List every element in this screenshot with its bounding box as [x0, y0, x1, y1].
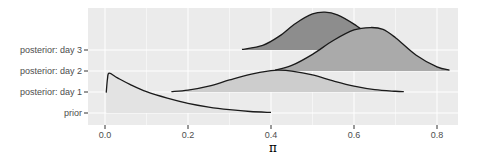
y-tick-label-day1: posterior: day 1: [20, 87, 82, 97]
x-axis: 0.0 0.2 0.4 0.6 0.8 π: [99, 125, 444, 155]
x-tick-label-1: 0.2: [182, 130, 195, 140]
x-axis-title: π: [269, 141, 277, 155]
ridgeline-chart: posterior: day 3 posterior: day 2 poster…: [0, 0, 492, 157]
x-tick-label-3: 0.6: [348, 130, 361, 140]
y-tick-label-day3: posterior: day 3: [20, 45, 82, 55]
x-tick-label-0: 0.0: [99, 130, 112, 140]
y-tick-label-day2: posterior: day 2: [20, 66, 82, 76]
y-axis: posterior: day 3 posterior: day 2 poster…: [20, 45, 88, 118]
x-tick-label-4: 0.8: [431, 130, 444, 140]
x-tick-label-2: 0.4: [265, 130, 278, 140]
y-tick-label-prior: prior: [64, 108, 82, 118]
